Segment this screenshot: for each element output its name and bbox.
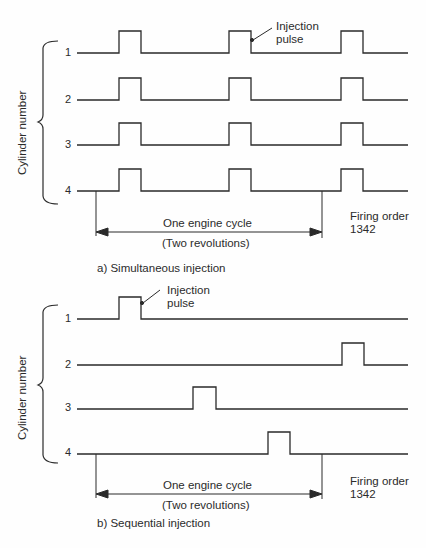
- cylinder-label-a-3: 3: [65, 138, 71, 151]
- arrowhead-left-icon: [96, 228, 108, 236]
- waveform-wave-b-cyl-3: [77, 387, 408, 409]
- arrowhead-right-icon: [310, 228, 322, 236]
- cylinder-label-b-2: 2: [65, 358, 71, 371]
- injection-pulse-label-a-line1: Injection: [276, 20, 319, 33]
- cylinder-label-a-4: 4: [65, 184, 71, 197]
- engine-cycle-marker-a: [96, 191, 322, 238]
- cylinder-label-a-1: 1: [65, 46, 71, 59]
- firing-order-label-a: Firing order: [350, 210, 409, 223]
- cylinder-bracket-a: [38, 41, 58, 204]
- waveform-wave-a-cyl-4: [77, 169, 408, 191]
- cycle-label-b-line1: One engine cycle: [163, 479, 252, 492]
- caption-a: a) Simultaneous injection: [97, 262, 226, 275]
- injection-pulse-label-b-line2: pulse: [167, 297, 195, 310]
- cylinder-label-a-2: 2: [65, 93, 71, 106]
- arrowhead-right-icon: [310, 490, 322, 498]
- cycle-label-b-line2: (Two revolutions): [162, 499, 250, 512]
- injection-pulse-leader-a: [250, 28, 272, 42]
- panel-b-waveforms: [77, 297, 408, 454]
- waveform-wave-a-cyl-2: [77, 78, 408, 100]
- waveform-wave-a-cyl-3: [77, 123, 408, 145]
- injection-pulse-label-a-line2: pulse: [276, 33, 304, 46]
- engine-cycle-marker-b: [96, 454, 322, 499]
- waveform-wave-b-cyl-2: [77, 343, 408, 365]
- waveform-wave-b-cyl-4: [77, 432, 408, 454]
- firing-order-label-b: Firing order: [350, 475, 409, 488]
- firing-order-value-b: 1342: [350, 488, 376, 501]
- waveform-wave-a-cyl-1: [77, 31, 408, 53]
- arrowhead-left-icon: [96, 490, 108, 498]
- injection-pulse-label-b-line1: Injection: [167, 284, 210, 297]
- cycle-label-a-line1: One engine cycle: [163, 217, 252, 230]
- cylinder-label-b-4: 4: [65, 446, 71, 459]
- cylinder-bracket-b: [38, 305, 58, 463]
- cycle-label-a-line2: (Two revolutions): [162, 237, 250, 250]
- cylinder-label-b-3: 3: [65, 401, 71, 414]
- y-axis-label-b: Cylinder number: [16, 356, 28, 440]
- firing-order-value-a: 1342: [350, 223, 376, 236]
- y-axis-label-a: Cylinder number: [16, 91, 28, 175]
- cylinder-label-b-1: 1: [65, 312, 71, 325]
- caption-b: b) Sequential injection: [97, 517, 210, 530]
- injection-pulse-leader-b: [140, 290, 160, 305]
- waveform-wave-b-cyl-1: [77, 297, 408, 319]
- panel-a-waveforms: [77, 31, 408, 191]
